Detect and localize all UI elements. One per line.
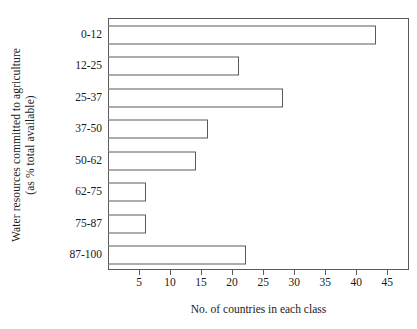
x-axis-tick (325, 270, 326, 275)
x-axis-tick-label: 5 (136, 276, 142, 288)
x-axis-tick (263, 270, 264, 275)
y-axis-title-line-1: Water resources committed to agriculture (10, 48, 22, 242)
y-axis-tick-label: 75-87 (75, 217, 102, 229)
y-axis-tick-label: 37-50 (75, 122, 102, 134)
y-axis-title: Water resources committed to agriculture… (0, 0, 46, 290)
bar-chart-figure: Water resources committed to agriculture… (0, 0, 417, 329)
x-axis-tick (387, 270, 388, 275)
y-axis-tick-label: 0-12 (81, 28, 102, 40)
bar (108, 214, 146, 233)
y-axis-tick-labels: 0-1212-2525-3737-5050-6262-7575-8787-100 (46, 18, 106, 270)
x-axis-title: No. of countries in each class (108, 303, 409, 315)
x-axis-tick (201, 270, 202, 275)
bar (108, 183, 146, 202)
x-axis-tick-label: 20 (226, 276, 238, 288)
bar (108, 120, 208, 139)
y-axis-tick-label: 12-25 (75, 59, 102, 71)
x-axis-tick (294, 270, 295, 275)
x-axis-tick (356, 270, 357, 275)
x-axis-tick (232, 270, 233, 275)
x-axis-tick-labels: 51015202530354045 (108, 276, 409, 292)
bar (108, 57, 239, 76)
y-axis-title-line-2: (as % total available) (23, 48, 37, 242)
plot-area (108, 18, 409, 270)
bar (108, 88, 283, 107)
bar (108, 246, 246, 265)
x-axis-tick-label: 40 (350, 276, 362, 288)
y-axis-tick-label: 25-37 (75, 91, 102, 103)
x-axis-tick-label: 35 (319, 276, 331, 288)
y-axis-tick-label: 87-100 (69, 248, 102, 260)
x-axis-tick-label: 10 (164, 276, 176, 288)
x-axis-tick (139, 270, 140, 275)
y-axis-tick-label: 50-62 (75, 154, 102, 166)
x-axis-tick-label: 30 (288, 276, 300, 288)
bar (108, 25, 376, 44)
bar (108, 151, 196, 170)
x-axis-tick-label: 25 (257, 276, 269, 288)
x-axis-tick (170, 270, 171, 275)
y-axis-tick-label: 62-75 (75, 185, 102, 197)
x-axis-tick-label: 45 (382, 276, 394, 288)
x-axis-tick-label: 15 (195, 276, 207, 288)
